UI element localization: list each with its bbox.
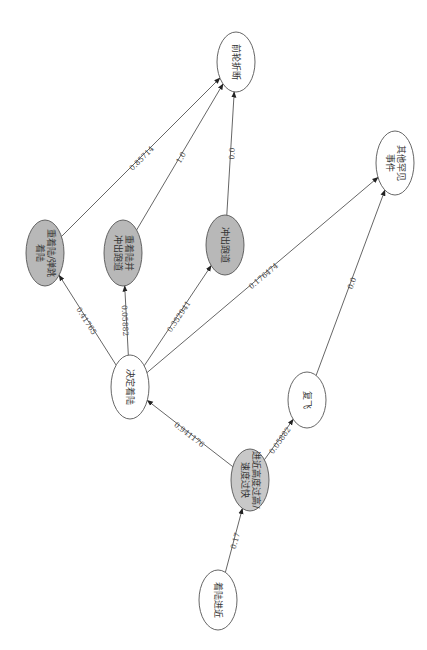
edge-probability-label: 0.941176 xyxy=(172,420,206,449)
node-label: 决定着陆 xyxy=(125,369,136,405)
edge-approach-to-too_high_fast: 0.17 xyxy=(225,508,242,572)
edge-probability-label: 1.0 xyxy=(174,150,188,165)
edge-probability-label: 0.05882 xyxy=(120,305,131,337)
node-runway_excursion: 冲出跑道 xyxy=(206,215,244,275)
node-label: 冲出跑道 xyxy=(220,227,231,263)
edge-hard_bounce-to-nose_gear: 0.85714 xyxy=(61,78,219,236)
node-go_around: 复飞 xyxy=(288,372,326,428)
node-label: 重着陆并 xyxy=(124,235,135,271)
edge-too_high_fast-to-go_around: 0.05882 xyxy=(264,419,293,459)
edge-probability-label: 0.17 xyxy=(229,531,242,550)
edge-decide_land-to-hard_runway: 0.05882 xyxy=(120,286,131,355)
node-approach: 着陆进近 xyxy=(199,570,237,630)
node-label: 着陆进近 xyxy=(213,582,224,618)
edge-probability-label: 0.176474 xyxy=(247,261,280,291)
node-decide_land: 决定着陆 xyxy=(111,355,149,419)
edge-probability-label: 0.85714 xyxy=(128,144,156,172)
edges-layer: 0.170.9411760.058820.417650.058820.35294… xyxy=(59,78,385,572)
edge-probability-label: 0.05882 xyxy=(267,425,292,456)
edge-probability-label: 0.0 xyxy=(346,276,359,291)
edge-decide_land-to-other_rare: 0.176474 xyxy=(147,177,378,372)
node-label: 重着陆/弹跳 xyxy=(46,229,57,277)
node-label: 事件 xyxy=(385,154,396,172)
node-too_high_fast: 进近高度过高/速度过快 xyxy=(231,449,269,511)
nodes-layer: 着陆进近进近高度过高/速度过快复飞决定着陆重着陆/弹跳着陆重着陆并冲出跑道冲出跑… xyxy=(26,32,414,630)
node-label: 复飞 xyxy=(302,391,313,409)
node-label: 其他罕见 xyxy=(396,145,407,181)
edge-too_high_fast-to-decide_land: 0.941176 xyxy=(147,400,233,466)
node-hard_runway: 重着陆并冲出跑道 xyxy=(104,220,142,286)
edge-decide_land-to-runway_excursion: 0.352941 xyxy=(144,266,211,366)
node-hard_bounce: 重着陆/弹跳着陆 xyxy=(26,220,64,286)
edge-decide_land-to-hard_bounce: 0.41765 xyxy=(59,275,116,365)
edge-probability-label: 0.0 xyxy=(227,147,237,160)
edge-go_around-to-other_rare: 0.0 xyxy=(316,190,385,375)
edge-hard_runway-to-nose_gear: 1.0 xyxy=(137,84,223,230)
edge-probability-label: 0.41765 xyxy=(74,305,98,336)
node-label: 速度过快 xyxy=(240,462,251,498)
edge-runway_excursion-to-nose_gear: 0.0 xyxy=(227,92,237,215)
event-tree-diagram: 0.170.9411760.058820.417650.058820.35294… xyxy=(0,0,427,650)
node-nose_gear: 前轮折断 xyxy=(217,32,255,92)
node-label: 着陆 xyxy=(35,244,46,262)
node-other_rare: 其他罕见事件 xyxy=(376,131,414,195)
node-label: 冲出跑道 xyxy=(113,235,124,271)
node-label: 进近高度过高/ xyxy=(251,451,262,509)
node-label: 前轮折断 xyxy=(231,44,242,80)
edge-probability-label: 0.352941 xyxy=(165,299,192,334)
